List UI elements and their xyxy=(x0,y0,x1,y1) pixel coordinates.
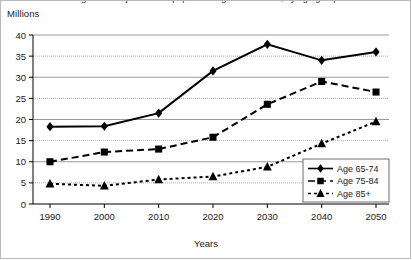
y-tick-labels-group: 0510152025303540 xyxy=(15,30,26,210)
x-tick-labels-group: 1990200020102020203020402050 xyxy=(39,211,386,222)
data-point-triangle-marker xyxy=(209,172,218,181)
data-point-diamond-marker xyxy=(101,122,108,131)
data-point-square-marker xyxy=(155,146,162,153)
chart-container: Figure 1. Projected U.S. population age … xyxy=(0,0,412,260)
y-tick-label: 15 xyxy=(15,135,26,146)
data-point-triangle-marker xyxy=(263,162,272,171)
y-tick-label: 0 xyxy=(21,199,26,210)
data-point-square-marker xyxy=(46,158,53,165)
y-tick-label: 20 xyxy=(15,114,26,125)
data-point-square-marker xyxy=(101,149,108,156)
y-tick-label: 35 xyxy=(15,51,26,62)
x-tick-label: 2040 xyxy=(311,211,332,222)
legend-label: Age 65-74 xyxy=(337,164,379,174)
chart-legend: Age 65-74Age 75-84Age 85+ xyxy=(303,159,389,202)
data-point-diamond-marker xyxy=(209,66,216,75)
x-axis-title: Years xyxy=(0,238,412,249)
x-tick-label: 2020 xyxy=(202,211,223,222)
series-line xyxy=(50,81,376,161)
data-point-triangle-marker xyxy=(154,175,163,184)
y-tick-label: 30 xyxy=(15,72,26,83)
data-point-triangle-marker xyxy=(372,117,381,126)
legend-label: Age 75-84 xyxy=(337,176,379,186)
y-tick-label: 5 xyxy=(21,177,26,188)
y-tickmarks-group xyxy=(29,35,33,204)
legend-label: Age 85+ xyxy=(337,189,371,199)
x-tick-label: 2050 xyxy=(365,211,386,222)
data-series xyxy=(46,78,379,165)
y-tick-label: 25 xyxy=(15,93,26,104)
series-line xyxy=(50,44,376,126)
data-point-triangle-marker xyxy=(317,139,326,148)
data-point-diamond-marker xyxy=(372,47,379,56)
data-point-square-marker xyxy=(264,101,271,108)
y-tick-label: 40 xyxy=(15,30,26,41)
data-point-diamond-marker xyxy=(264,40,271,49)
data-series xyxy=(46,40,379,132)
x-tick-label: 2000 xyxy=(94,211,115,222)
data-point-diamond-marker xyxy=(318,56,325,65)
legend-marker-square xyxy=(317,178,323,184)
data-point-diamond-marker xyxy=(46,122,53,131)
y-tick-label: 10 xyxy=(15,156,26,167)
data-point-square-marker xyxy=(318,78,325,85)
x-tickmarks-group xyxy=(50,204,376,208)
data-point-diamond-marker xyxy=(155,109,162,118)
data-point-square-marker xyxy=(209,134,216,141)
data-point-triangle-marker xyxy=(100,181,109,190)
x-tick-label: 1990 xyxy=(39,211,60,222)
x-tick-label: 2010 xyxy=(148,211,169,222)
data-point-square-marker xyxy=(372,89,379,96)
x-tick-label: 2030 xyxy=(257,211,278,222)
plot-area: 0510152025303540 19902000201020202030204… xyxy=(0,0,412,260)
